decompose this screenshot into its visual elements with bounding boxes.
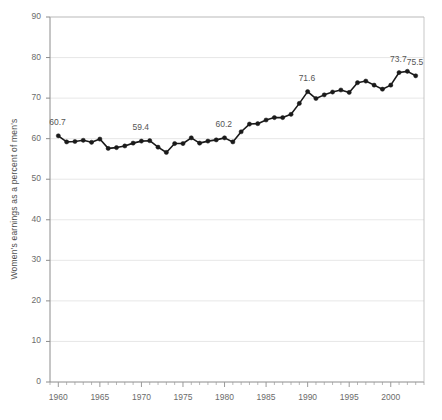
data-point-marker (314, 96, 318, 100)
data-point-marker (89, 140, 93, 144)
y-tick-label: 70 (19, 92, 41, 102)
data-point-label: 73.7 (390, 54, 407, 64)
data-point-marker (139, 139, 143, 143)
data-point-marker (347, 90, 351, 94)
data-point-label: 71.6 (299, 73, 316, 83)
x-tick-label: 1970 (124, 392, 158, 402)
data-point-marker (247, 122, 251, 126)
x-tick-label: 2000 (374, 392, 408, 402)
y-tick-label: 30 (19, 254, 41, 264)
y-tick-label: 40 (19, 214, 41, 224)
chart-container: Women's earnings as a percent of men's 0… (0, 0, 442, 420)
data-point-marker (256, 122, 260, 126)
data-point-marker (389, 83, 393, 87)
data-point-marker (306, 90, 310, 94)
data-point-marker (164, 150, 168, 154)
data-point-marker (231, 140, 235, 144)
x-tick-label: 1995 (332, 392, 366, 402)
data-point-marker (65, 140, 69, 144)
data-point-marker (106, 146, 110, 150)
data-point-marker (222, 136, 226, 140)
y-tick-label: 20 (19, 295, 41, 305)
data-point-marker (297, 101, 301, 105)
x-tick-label: 1985 (249, 392, 283, 402)
data-point-marker (372, 83, 376, 87)
x-tick-label: 1975 (166, 392, 200, 402)
data-point-marker (156, 145, 160, 149)
data-point-marker (73, 139, 77, 143)
x-tick-label: 1960 (41, 392, 75, 402)
data-point-marker (397, 70, 401, 74)
data-point-marker (114, 145, 118, 149)
data-point-marker (189, 136, 193, 140)
data-point-marker (206, 139, 210, 143)
data-point-marker (214, 138, 218, 142)
y-tick-label: 0 (19, 376, 41, 386)
data-point-marker (198, 141, 202, 145)
data-point-marker (414, 74, 418, 78)
data-point-marker (131, 141, 135, 145)
data-point-label: 59.4 (132, 122, 149, 132)
data-point-marker (123, 144, 127, 148)
data-point-marker (272, 115, 276, 119)
data-point-marker (81, 138, 85, 142)
data-point-marker (181, 141, 185, 145)
x-tick-label: 1990 (291, 392, 325, 402)
data-point-marker (173, 141, 177, 145)
data-point-marker (355, 81, 359, 85)
y-tick-label: 80 (19, 52, 41, 62)
data-point-label: 60.2 (216, 119, 233, 129)
y-tick-label: 10 (19, 335, 41, 345)
series-line (58, 71, 415, 152)
data-point-marker (56, 134, 60, 138)
y-tick-label: 60 (19, 133, 41, 143)
y-tick-label: 90 (19, 11, 41, 21)
data-point-marker (380, 87, 384, 91)
data-point-marker (281, 115, 285, 119)
x-tick-label: 1965 (83, 392, 117, 402)
line-chart-plot (0, 0, 442, 420)
y-tick-label: 50 (19, 173, 41, 183)
data-point-marker (239, 130, 243, 134)
data-point-marker (289, 112, 293, 116)
data-point-label: 60.7 (49, 117, 66, 127)
data-point-marker (322, 93, 326, 97)
data-point-marker (98, 137, 102, 141)
x-tick-label: 1980 (208, 392, 242, 402)
data-point-marker (405, 69, 409, 73)
data-point-marker (330, 90, 334, 94)
data-point-marker (339, 88, 343, 92)
data-point-marker (148, 139, 152, 143)
data-point-label: 75.5 (407, 57, 424, 67)
data-point-marker (264, 118, 268, 122)
data-point-marker (364, 79, 368, 83)
